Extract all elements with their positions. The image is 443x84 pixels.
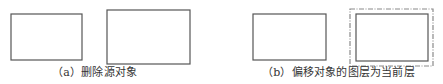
offset-rectangle-larger — [107, 10, 190, 64]
offset-rectangle-dashed-layer — [350, 9, 433, 66]
panel-b-shapes — [253, 9, 433, 66]
source-rectangle — [253, 14, 326, 60]
source-rectangle — [11, 14, 82, 60]
caption-b: （b）偏移对象的图层为当前层 — [262, 66, 415, 80]
offset-command-figure: （a）删除源对象 （b）偏移对象的图层为当前层 — [0, 0, 443, 84]
panel-a-shapes — [11, 10, 190, 64]
caption-a: （a）删除源对象 — [52, 66, 137, 80]
original-rectangle-inner — [356, 14, 428, 61]
